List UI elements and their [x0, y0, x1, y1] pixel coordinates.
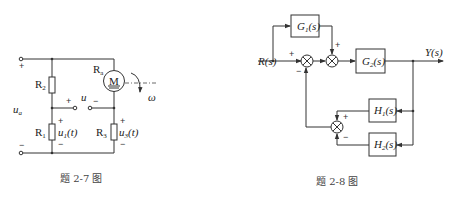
figure-2-7-circuit: + − ua R2 R1 R3 Ra M + u − + u1(t) − + u… — [13, 57, 156, 184]
svg-text:G2(s): G2(s) — [362, 55, 385, 69]
minus-sign: − — [19, 140, 24, 150]
svg-text:+: + — [66, 96, 71, 106]
label-ra: Ra — [93, 63, 104, 77]
rotation-arrow-icon — [131, 73, 140, 92]
resistor-r1 — [49, 124, 55, 140]
caption-fig-2-8: 题 2-8 图 — [316, 176, 358, 187]
svg-text:G1(s): G1(s) — [297, 20, 320, 34]
svg-text:−: − — [58, 139, 63, 149]
resistor-r2 — [49, 77, 55, 93]
svg-text:+: + — [335, 40, 340, 50]
label-motor: M — [109, 75, 119, 87]
svg-text:+: + — [58, 116, 63, 126]
label-omega: ω — [148, 91, 156, 103]
label-r1: R1 — [35, 126, 46, 140]
svg-text:−: − — [93, 96, 98, 106]
svg-text:−: − — [120, 139, 125, 149]
label-u1: u1(t) — [58, 126, 78, 140]
bottom-terminal — [19, 151, 23, 155]
svg-text:H2(s): H2(s) — [373, 138, 397, 152]
caption-fig-2-7: 题 2-7 图 — [60, 173, 102, 184]
label-u: u — [81, 91, 87, 103]
resistor-r3 — [111, 124, 117, 140]
label-u3: u3(t) — [119, 126, 139, 140]
svg-text:+: + — [120, 116, 125, 126]
figures-canvas: + − ua R2 R1 R3 Ra M + u − + u1(t) − + u… — [0, 0, 459, 200]
label-r3: R3 — [96, 126, 107, 140]
svg-text:H1(s): H1(s) — [373, 104, 397, 118]
figure-2-8-block-diagram: G1(s) G2(s) Y(s) R(s) H1(s) H2(s) — [257, 15, 443, 187]
svg-text:+: + — [289, 49, 294, 59]
label-r2: R2 — [35, 78, 46, 92]
svg-text:−: − — [343, 132, 348, 142]
plus-sign: + — [19, 61, 24, 71]
label-ua: ua — [13, 103, 23, 117]
label-input: R(s) — [257, 55, 277, 68]
svg-text:−: − — [296, 66, 301, 76]
label-output: Y(s) — [425, 46, 443, 59]
svg-text:+: + — [343, 112, 348, 122]
open-terminal-left — [73, 106, 77, 110]
open-terminal-right — [88, 106, 92, 110]
